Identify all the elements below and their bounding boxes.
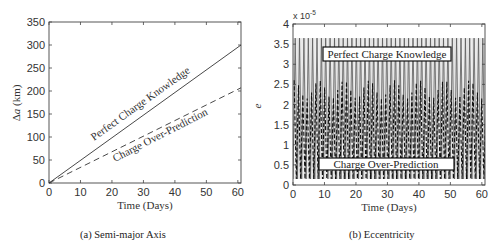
y-tick-label: 1 <box>283 139 289 151</box>
x-tick-label: 40 <box>169 186 181 198</box>
over-prediction-label: Charge Over-Prediction <box>334 158 439 170</box>
y-tick-label: 350 <box>27 16 45 28</box>
perfect-charge-label: Perfect Charge Knowledge <box>328 48 447 60</box>
semi-major-axis-panel: 050100150200250300350 0102030405060 Perf… <box>0 0 250 251</box>
y-tick-label: 2 <box>283 99 289 111</box>
over-prediction-label-box: Charge Over-Prediction <box>319 158 454 170</box>
y-tick-label: 3 <box>283 58 289 70</box>
y-tick-label: 0 <box>39 177 45 189</box>
caption-b: (b) Eccentricity <box>349 229 415 240</box>
y-tick-label: 4 <box>283 18 289 30</box>
svg-text:Δa (km): Δa (km) <box>10 84 23 121</box>
y-axis-label: e <box>251 103 263 108</box>
y-label-unit: (km) <box>10 84 23 108</box>
x-tick-label: 0 <box>290 188 296 200</box>
y-tick-label: 2.5 <box>274 78 289 90</box>
y-tick-label: 200 <box>27 85 45 97</box>
y-tick-label: 100 <box>27 131 45 143</box>
x-tick-label: 40 <box>413 188 425 200</box>
x-tick-label: 10 <box>318 188 330 200</box>
x-tick-label: 10 <box>74 186 86 198</box>
y-tick-label: 50 <box>33 154 45 166</box>
y-tick-label: 300 <box>27 39 45 51</box>
y-tick-label: 3.5 <box>274 38 289 50</box>
x-tick-label: 50 <box>200 186 212 198</box>
y-multiplier: x 10-5 <box>293 9 316 21</box>
y-tick-label: 150 <box>27 108 45 120</box>
x-tick-label: 0 <box>46 186 52 198</box>
x-tick-label: 20 <box>106 186 118 198</box>
semi-major-axis-chart: 050100150200250300350 0102030405060 Perf… <box>0 0 250 251</box>
caption-a: (a) Semi-major Axis <box>80 229 166 240</box>
eccentricity-panel: 00.511.522.533.54 0102030405060 Perfect … <box>250 0 497 251</box>
y-tick-label: 250 <box>27 62 45 74</box>
x-tick-label: 20 <box>350 188 362 200</box>
x-tick-label: 50 <box>444 188 456 200</box>
multiplier-base: x 10 <box>293 11 310 21</box>
y-tick-label: 1.5 <box>274 119 289 131</box>
x-tick-label: 30 <box>381 188 393 200</box>
y-label-delta: Δ <box>10 114 22 121</box>
eccentricity-chart: 00.511.522.533.54 0102030405060 Perfect … <box>250 0 497 251</box>
y-tick-label: 0 <box>283 179 289 191</box>
x-tick-label: 60 <box>476 188 488 200</box>
perfect-charge-label-box: Perfect Charge Knowledge <box>323 47 451 61</box>
x-axis-label: Time (Days) <box>361 201 417 214</box>
y-tick-label: 0.5 <box>274 159 289 171</box>
x-axis-label: Time (Days) <box>117 199 173 212</box>
x-tick-label: 60 <box>232 186 244 198</box>
multiplier-exp: -5 <box>310 9 316 16</box>
y-axis-label: Δa (km) <box>10 84 23 121</box>
x-tick-label: 30 <box>137 186 149 198</box>
